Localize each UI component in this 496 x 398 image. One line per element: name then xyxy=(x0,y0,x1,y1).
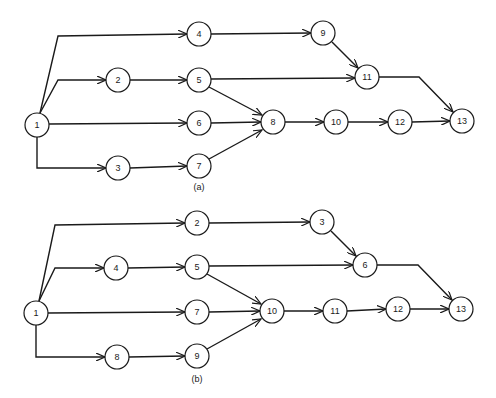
node-7: 7 xyxy=(187,154,211,178)
edge-2-to-3 xyxy=(209,222,310,223)
node-6: 6 xyxy=(187,111,211,135)
edge-4-to-5 xyxy=(128,267,185,268)
node-label: 8 xyxy=(114,352,119,362)
edge-11-to-12 xyxy=(347,309,386,311)
node-label: 10 xyxy=(331,117,341,127)
node-label: 9 xyxy=(320,28,325,38)
node-8: 8 xyxy=(261,110,285,134)
network-diagram-a: 12345678910111213(a) xyxy=(25,21,474,192)
node-10: 10 xyxy=(260,299,284,323)
node-2: 2 xyxy=(185,211,209,235)
node-2: 2 xyxy=(106,68,130,92)
edge-5-to-8 xyxy=(209,87,262,115)
node-label: 9 xyxy=(194,351,199,361)
edge-3-to-7 xyxy=(130,166,187,168)
edge-12-to-13 xyxy=(412,121,450,122)
node-5: 5 xyxy=(187,68,211,92)
node-13: 13 xyxy=(449,297,473,321)
node-12: 12 xyxy=(388,110,412,134)
network-diagram-b: 12345678910111213(b) xyxy=(24,210,473,384)
edge-1-to-7 xyxy=(48,312,185,313)
node-label: 3 xyxy=(319,217,324,227)
node-label: 5 xyxy=(196,75,201,85)
node-label: 3 xyxy=(115,163,120,173)
edge-9-to-11 xyxy=(332,42,358,68)
node-label: 1 xyxy=(33,308,38,318)
edge-1-to-2 xyxy=(40,80,106,113)
node-5: 5 xyxy=(185,255,209,279)
edge-11-to-13 xyxy=(379,77,453,112)
node-4: 4 xyxy=(187,22,211,46)
node-1: 1 xyxy=(24,301,48,325)
node-label: 6 xyxy=(196,118,201,128)
node-1: 1 xyxy=(25,113,49,137)
edge-6-to-8 xyxy=(211,122,261,123)
edge-5-to-11 xyxy=(211,78,355,79)
node-13: 13 xyxy=(450,109,474,133)
node-label: 5 xyxy=(194,262,199,272)
edge-3-to-6 xyxy=(331,231,356,256)
node-7: 7 xyxy=(185,300,209,324)
node-label: 12 xyxy=(393,304,403,314)
node-6: 6 xyxy=(353,253,377,277)
node-label: 13 xyxy=(456,304,466,314)
node-label: 8 xyxy=(270,117,275,127)
node-11: 11 xyxy=(355,65,379,89)
node-label: 1 xyxy=(34,120,39,130)
node-label: 11 xyxy=(362,72,371,82)
edge-1-to-8 xyxy=(36,325,105,357)
edge-9-to-10 xyxy=(207,319,261,349)
node-label: 2 xyxy=(115,75,120,85)
edge-1-to-3 xyxy=(37,137,106,168)
diagram-caption: (a) xyxy=(194,182,205,192)
edge-5-to-6 xyxy=(209,265,353,266)
node-label: 11 xyxy=(330,306,339,316)
edge-8-to-9 xyxy=(129,356,185,357)
edge-7-to-10 xyxy=(209,311,260,312)
node-3: 3 xyxy=(310,210,334,234)
node-9: 9 xyxy=(311,21,335,45)
edge-5-to-10 xyxy=(207,274,261,304)
node-10: 10 xyxy=(324,110,348,134)
edge-1-to-6 xyxy=(49,123,187,124)
node-label: 4 xyxy=(196,29,201,39)
network-diagram-figure: 12345678910111213(a) 12345678910111213(b… xyxy=(0,0,496,398)
node-3: 3 xyxy=(106,156,130,180)
node-label: 2 xyxy=(194,218,199,228)
node-label: 4 xyxy=(113,263,118,273)
node-4: 4 xyxy=(104,256,128,280)
node-8: 8 xyxy=(105,345,129,369)
edge-7-to-8 xyxy=(209,130,262,159)
edge-6-to-13 xyxy=(377,265,452,300)
node-9: 9 xyxy=(185,344,209,368)
diagram-caption: (b) xyxy=(192,374,203,384)
node-label: 12 xyxy=(395,117,405,127)
node-12: 12 xyxy=(386,297,410,321)
node-11: 11 xyxy=(323,299,347,323)
node-label: 7 xyxy=(196,161,201,171)
node-label: 6 xyxy=(362,260,367,270)
node-label: 7 xyxy=(194,307,199,317)
node-label: 10 xyxy=(267,306,277,316)
edge-4-to-9 xyxy=(211,33,311,34)
edge-1-to-4 xyxy=(39,268,104,301)
node-label: 13 xyxy=(457,116,467,126)
